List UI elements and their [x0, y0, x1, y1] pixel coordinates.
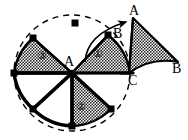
label-A-center: A — [64, 55, 74, 69]
vertex-dot-bottom — [69, 123, 76, 130]
label-C: C — [128, 74, 137, 88]
sector-blank-shape — [33, 73, 72, 126]
sector-label-one: ① — [93, 48, 103, 59]
label-A-top: A — [129, 4, 139, 18]
figure-canvas — [0, 0, 188, 140]
sector-detached-shape — [129, 18, 178, 73]
vertex-dot-top — [72, 20, 79, 27]
sector-blank-arc-left — [14, 73, 33, 109]
label-B-outer: B — [172, 62, 181, 76]
vertex-dot-lower-right — [108, 106, 115, 113]
sector-label-two: ② — [76, 101, 86, 112]
label-B-inner: B — [113, 27, 122, 41]
center-point-A — [69, 70, 75, 76]
sector-label-three: ③ — [37, 50, 47, 61]
vertex-dot-upper-left — [30, 35, 37, 42]
geometry-figure: A A B B C ① ② ③ — [0, 0, 188, 140]
vertex-dot-B — [105, 32, 112, 39]
vertex-dot-left — [11, 70, 18, 77]
vertex-dot-lower-left — [30, 106, 37, 113]
